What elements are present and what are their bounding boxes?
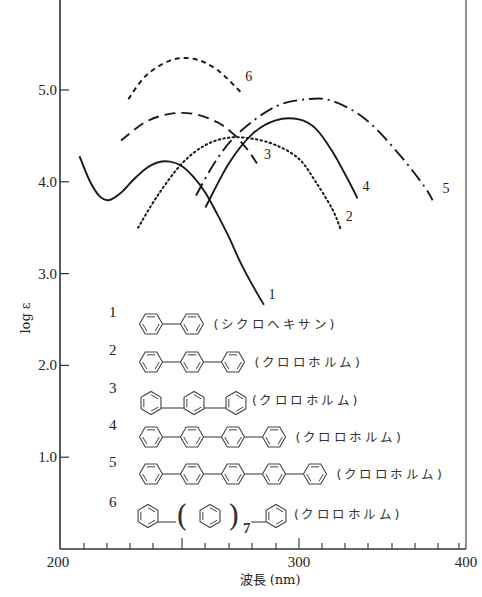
legend: 1(シクロヘキサン)2(クロロホルム)3(クロロホルム)4(クロロホルム)5(ク… xyxy=(109,304,444,536)
curve-label-5: 5 xyxy=(443,181,450,196)
legend-number: 3 xyxy=(109,380,117,396)
legend-item-1: 1(シクロヘキサン) xyxy=(109,304,337,334)
repeat-subscript: 7 xyxy=(243,520,251,536)
curve-3 xyxy=(121,113,257,164)
legend-item-4: 4(クロロホルム) xyxy=(109,417,403,447)
curve-5 xyxy=(196,98,433,200)
legend-item-2: 2(クロロホルム) xyxy=(109,342,362,372)
curve-4 xyxy=(205,118,357,207)
x-axis-title: 波長 (nm) xyxy=(240,572,301,587)
legend-item-6: 6()7(クロロホルム) xyxy=(109,494,402,536)
legend-solvent: (シクロヘキサン) xyxy=(214,317,337,332)
curve-label-2: 2 xyxy=(346,209,353,224)
x-tick-label: 400 xyxy=(455,554,478,570)
axes: 2003004001.02.03.04.05.0 xyxy=(38,0,477,570)
uv-absorption-chart: 2003004001.02.03.04.05.0 123456 1(シクロヘキサ… xyxy=(0,0,482,597)
curve-label-3: 3 xyxy=(264,147,271,162)
curve-labels: 123456 xyxy=(245,69,449,302)
legend-item-3: 3(クロロホルム) xyxy=(109,380,360,415)
y-axis-title: log ε xyxy=(18,302,33,333)
legend-solvent: (クロロホルム) xyxy=(255,355,363,370)
curve-label-4: 4 xyxy=(362,179,369,194)
curve-label-1: 1 xyxy=(269,287,276,302)
legend-number: 2 xyxy=(109,342,117,358)
curve-1 xyxy=(80,156,264,305)
x-tick-label: 300 xyxy=(288,554,311,570)
curve-6 xyxy=(128,58,240,99)
curve-2 xyxy=(138,137,341,229)
legend-number: 1 xyxy=(109,304,117,320)
legend-item-5: 5(クロロホルム) xyxy=(109,454,444,484)
x-tick-label: 200 xyxy=(47,554,70,570)
y-tick-label: 1.0 xyxy=(38,449,57,465)
legend-solvent: (クロロホルム) xyxy=(296,430,404,445)
legend-solvent: (クロロホルム) xyxy=(294,507,402,522)
right-paren: ) xyxy=(228,498,240,533)
spectra-curves xyxy=(80,58,433,305)
legend-number: 5 xyxy=(109,454,117,470)
legend-solvent: (クロロホルム) xyxy=(252,393,360,408)
legend-number: 6 xyxy=(109,494,117,510)
y-tick-label: 5.0 xyxy=(38,82,57,98)
legend-number: 4 xyxy=(109,417,117,433)
left-paren: ( xyxy=(176,498,188,533)
legend-solvent: (クロロホルム) xyxy=(337,467,445,482)
y-tick-label: 2.0 xyxy=(38,357,57,373)
y-tick-label: 4.0 xyxy=(38,174,57,190)
curve-label-6: 6 xyxy=(245,69,252,84)
y-tick-label: 3.0 xyxy=(38,266,57,282)
